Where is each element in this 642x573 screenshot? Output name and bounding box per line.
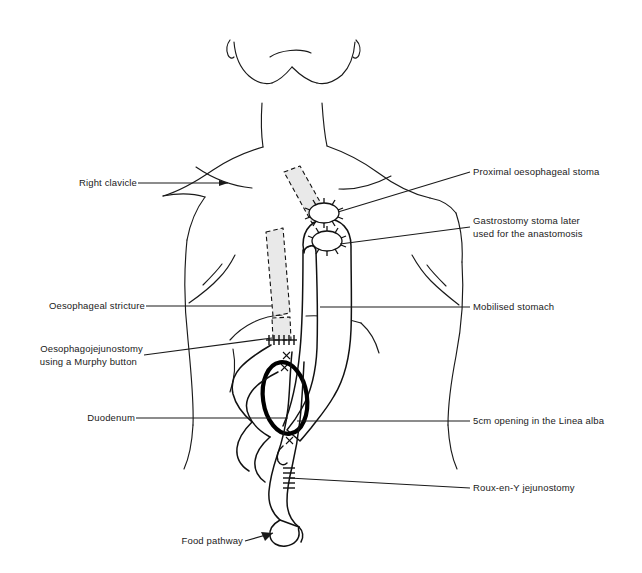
medical-illustration-figure: Right clavicle Oesophageal stricture Oes… bbox=[0, 0, 642, 573]
label-oesophageal-stricture: Oesophageal stricture bbox=[49, 300, 145, 311]
label-gastrostomy-stoma-line1: Gastrostomy stoma later bbox=[473, 215, 580, 226]
label-proximal-oesophageal-stoma: Proximal oesophageal stoma bbox=[473, 166, 600, 177]
diagram-canvas: Right clavicle Oesophageal stricture Oes… bbox=[0, 0, 642, 573]
label-linea-alba-opening: 5cm opening in the Linea alba bbox=[473, 415, 605, 426]
label-oesophagojejunostomy-line1: Oesophagojejunostomy bbox=[40, 343, 143, 354]
label-right-clavicle: Right clavicle bbox=[79, 177, 137, 188]
label-roux-en-y-jejunostomy: Roux-en-Y jejunostomy bbox=[473, 482, 575, 493]
oesophagus-stump-at-anastomosis bbox=[272, 317, 291, 340]
label-food-pathway: Food pathway bbox=[182, 535, 244, 546]
label-oesophagojejunostomy-line2: using a Murphy button bbox=[40, 356, 137, 367]
label-mobilised-stomach: Mobilised stomach bbox=[473, 301, 554, 312]
label-duodenum: Duodenum bbox=[87, 412, 135, 423]
label-gastrostomy-stoma-line2: used for the anastomosis bbox=[473, 228, 583, 239]
